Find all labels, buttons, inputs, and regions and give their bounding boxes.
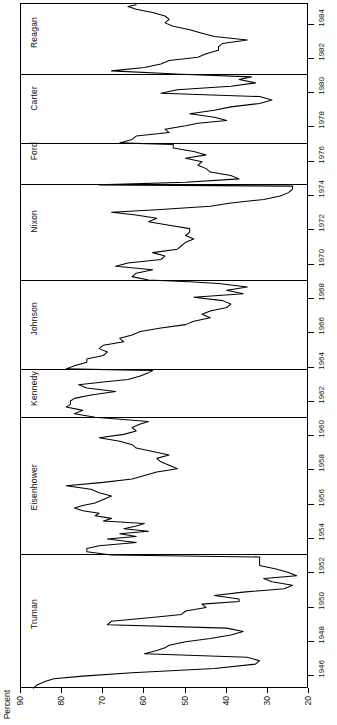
year-tick-label: 1978: [317, 111, 326, 129]
percent-tick-label: 90: [15, 696, 25, 705]
year-tick: [308, 469, 314, 470]
panel-divider: [20, 280, 308, 281]
percent-tick: [102, 688, 103, 693]
year-tick-label: 1980: [317, 77, 326, 95]
percent-tick-label: 80: [56, 696, 66, 705]
year-tick: [308, 538, 314, 539]
year-tick-label: 1952: [317, 557, 326, 575]
year-tick-label: 1960: [317, 420, 326, 438]
year-tick: [308, 126, 314, 127]
year-tick-label: 1954: [317, 523, 326, 541]
year-tick-label: 1972: [317, 214, 326, 232]
chart-root: ReaganCarterFordNixonJohnsonKennedyEisen…: [0, 0, 337, 725]
panel-label-carter: Carter: [29, 86, 39, 111]
panel-label-reagan: Reagan: [29, 17, 39, 48]
percent-axis-title: Percent: [2, 690, 12, 719]
year-tick-label: 1966: [317, 317, 326, 335]
panel-divider: [20, 369, 308, 370]
year-tick-label: 1982: [317, 43, 326, 61]
panel-label-eisenhower: Eisenhower: [29, 464, 39, 510]
year-tick: [308, 264, 314, 265]
year-tick: [308, 161, 314, 162]
percent-tick-label: 50: [180, 696, 190, 705]
year-tick-label: 1962: [317, 386, 326, 404]
year-tick-label: 1970: [317, 249, 326, 267]
year-tick: [308, 92, 314, 93]
year-tick: [308, 24, 314, 25]
approval-line-series: [21, 4, 309, 689]
year-tick: [308, 504, 314, 505]
percent-tick: [61, 688, 62, 693]
year-tick-label: 1948: [317, 626, 326, 644]
percent-tick-label: 60: [138, 696, 148, 705]
panel-label-johnson: Johnson: [29, 302, 39, 336]
year-tick: [308, 675, 314, 676]
panel-divider: [20, 74, 308, 75]
year-tick-label: 1956: [317, 489, 326, 507]
year-tick: [308, 607, 314, 608]
year-tick: [308, 435, 314, 436]
panel-label-kennedy: Kennedy: [29, 371, 39, 406]
percent-tick: [308, 688, 309, 693]
year-tick-label: 1958: [317, 454, 326, 472]
year-tick-label: 1976: [317, 146, 326, 164]
panel-label-nixon: Nixon: [29, 210, 39, 233]
percent-tick: [185, 688, 186, 693]
plot-area: [20, 3, 308, 688]
year-tick-label: 1974: [317, 180, 326, 198]
year-tick-label: 1968: [317, 283, 326, 301]
percent-tick-label: 40: [221, 696, 231, 705]
percent-tick: [226, 688, 227, 693]
year-tick: [308, 195, 314, 196]
year-tick: [308, 572, 314, 573]
percent-tick-label: 20: [303, 696, 313, 705]
year-tick: [308, 401, 314, 402]
panel-divider: [20, 417, 308, 418]
percent-tick: [20, 688, 21, 693]
year-tick: [308, 332, 314, 333]
panel-divider: [20, 143, 308, 144]
panel-divider: [20, 554, 308, 555]
year-tick: [308, 58, 314, 59]
approval-line-path: [33, 5, 296, 688]
year-tick-label: 1946: [317, 660, 326, 678]
percent-tick: [267, 688, 268, 693]
panel-divider: [20, 184, 308, 185]
percent-tick: [143, 688, 144, 693]
year-tick-label: 1964: [317, 352, 326, 370]
year-tick: [308, 367, 314, 368]
year-tick-label: 1984: [317, 9, 326, 27]
year-tick: [308, 229, 314, 230]
panel-label-truman: Truman: [29, 599, 39, 629]
panel-label-ford: Ford: [29, 142, 39, 160]
percent-tick-label: 70: [97, 696, 107, 705]
percent-tick-label: 30: [262, 696, 272, 705]
year-tick: [308, 641, 314, 642]
year-tick: [308, 298, 314, 299]
year-tick-label: 1950: [317, 592, 326, 610]
